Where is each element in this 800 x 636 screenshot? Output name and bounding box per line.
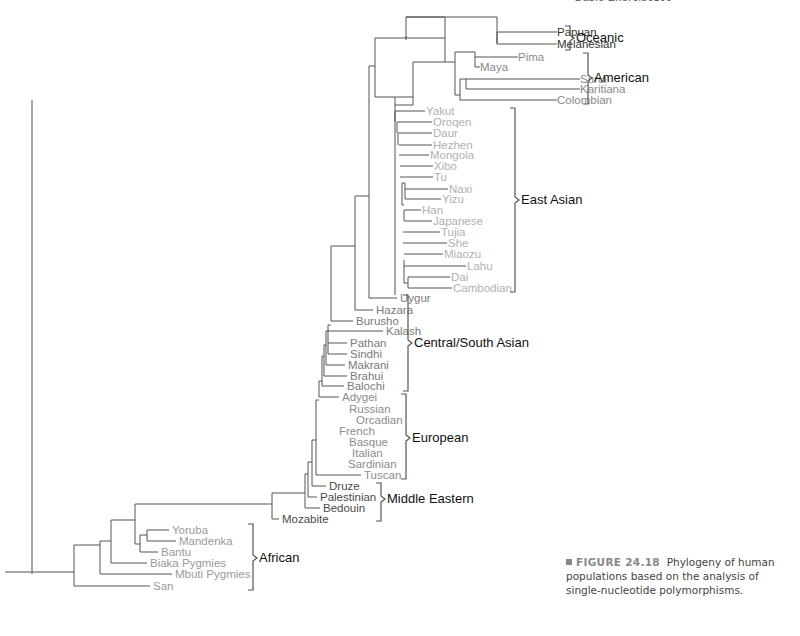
leaf-label: Tuscan <box>364 469 401 481</box>
group-bracket <box>248 524 257 590</box>
leaf-labels: PapuanMelanesianPimaMayaSuruiKaritianaCo… <box>150 26 626 592</box>
group-label: East Asian <box>521 192 582 207</box>
group-label: European <box>412 430 468 445</box>
tree-branches <box>5 17 580 586</box>
group-label: Central/South Asian <box>414 335 529 350</box>
leaf-label: San <box>153 580 173 592</box>
phylogeny-tree: PapuanMelanesianPimaMayaSuruiKaritianaCo… <box>0 0 800 636</box>
leaf-label: Lahu <box>467 260 493 272</box>
group-label: Middle Eastern <box>387 491 474 506</box>
group-label: American <box>594 70 649 85</box>
leaf-label: Mbuti Pygmies <box>175 568 251 580</box>
leaf-label: Miaozu <box>444 248 481 260</box>
leaf-label: Bedouin <box>323 502 365 514</box>
figure-number: FIGURE 24.18 <box>576 556 660 568</box>
leaf-label: Daur <box>433 127 458 139</box>
leaf-label: Uygur <box>400 292 431 304</box>
group-bracket <box>510 108 519 292</box>
leaf-label: Cambodian <box>453 282 512 294</box>
figure-caption: FIGURE 24.18 Phylogeny of human populati… <box>566 555 796 597</box>
leaf-label: Yizu <box>442 193 464 205</box>
group-bracket <box>401 394 410 479</box>
group-label: Oceanic <box>576 30 624 45</box>
leaf-label: Tu <box>434 171 447 183</box>
leaf-label: Adygei <box>342 391 377 403</box>
leaf-label: Pima <box>518 51 545 63</box>
group-bracket <box>376 483 385 521</box>
leaf-label: Maya <box>480 61 509 73</box>
caption-square-icon <box>566 559 572 565</box>
group-label: African <box>259 550 299 565</box>
leaf-label: Mozabite <box>282 513 329 525</box>
